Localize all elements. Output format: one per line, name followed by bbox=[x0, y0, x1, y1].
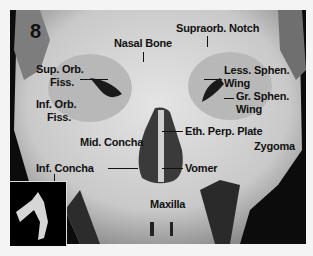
inf-concha-inset bbox=[10, 181, 67, 246]
leader-inf-concha bbox=[108, 168, 138, 169]
label-inf-concha: Inf. Concha bbox=[36, 162, 94, 174]
label-less-sphen-2: Wing bbox=[224, 77, 250, 89]
label-eth-perp-plate: Eth. Perp. Plate bbox=[185, 125, 263, 137]
leader-less-sphen bbox=[204, 79, 222, 80]
inf-concha-inset-illustration bbox=[10, 182, 66, 246]
label-less-sphen-1: Less. Sphen. bbox=[224, 64, 289, 76]
label-nasal-bone: Nasal Bone bbox=[114, 37, 172, 49]
leader-sup-orb-fiss bbox=[80, 79, 108, 80]
label-sup-orb-fiss-1: Sup. Orb. bbox=[36, 63, 84, 75]
label-zygoma: Zygoma bbox=[254, 140, 295, 152]
label-mid-concha: Mid. Concha bbox=[80, 136, 143, 148]
label-vomer: Vomer bbox=[185, 162, 217, 174]
leader-nasal-bone bbox=[143, 52, 144, 62]
label-gr-sphen-2: Wing bbox=[236, 103, 262, 115]
leader-supraorb-notch bbox=[207, 36, 208, 47]
label-supraorb-notch: Supraorb. Notch bbox=[176, 22, 259, 34]
leader-gr-sphen bbox=[224, 98, 234, 99]
label-sup-orb-fiss-2: Fiss. bbox=[50, 76, 74, 88]
label-gr-sphen-1: Gr. Sphen. bbox=[236, 90, 289, 102]
label-inf-orb-fiss-1: Inf. Orb. bbox=[36, 98, 76, 110]
label-maxilla: Maxilla bbox=[150, 198, 185, 210]
label-inf-orb-fiss-2: Fiss. bbox=[47, 111, 71, 123]
figure-number: 8 bbox=[30, 20, 41, 43]
leader-eth-perp-plate bbox=[162, 131, 183, 132]
leader-vomer bbox=[162, 168, 183, 169]
